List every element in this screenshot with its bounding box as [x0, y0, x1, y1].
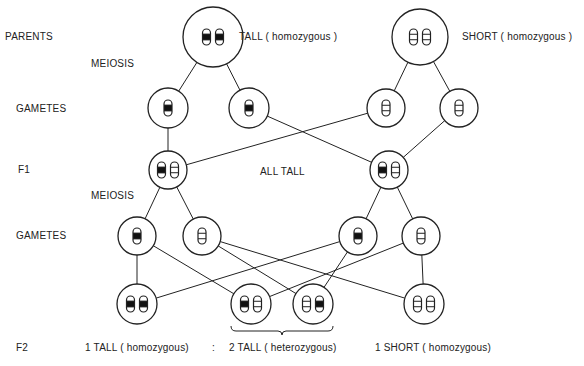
cell-gamete2-a	[118, 217, 156, 255]
cell-membrane	[367, 89, 405, 127]
cell-f2-b	[231, 284, 271, 324]
cell-membrane	[370, 151, 408, 189]
inheritance-line	[433, 62, 449, 92]
inheritance-line	[397, 187, 412, 219]
cell-membrane	[440, 89, 478, 127]
inheritance-line	[366, 187, 381, 219]
row-label-gametes-2: GAMETES	[16, 230, 66, 241]
cell-membrane	[293, 284, 333, 324]
cell-membrane	[392, 9, 448, 65]
row-label-f2: F2	[16, 342, 28, 353]
annotation-f2-ratio-separator: :	[212, 342, 215, 353]
inheritance-line	[394, 62, 408, 91]
cell-membrane	[404, 284, 444, 324]
inheritance-line	[145, 187, 160, 219]
cell-gamete2-c	[339, 217, 377, 255]
inheritance-line	[403, 121, 445, 158]
annotation-short-parent: SHORT ( homozygous )	[462, 31, 572, 42]
cell-f2-a	[117, 284, 157, 324]
cell-gamete1-short-b	[440, 89, 478, 127]
annotation-f2-tall-heterozygous: 2 TALL ( heterozygous)	[229, 342, 337, 353]
cell-f1-right	[370, 151, 408, 189]
cell-membrane	[183, 217, 221, 255]
inheritance-line	[177, 187, 194, 219]
annotation-f1-all-tall: ALL TALL	[260, 166, 305, 177]
row-label-meiosis-1: MEIOSIS	[91, 58, 134, 69]
inheritance-line	[422, 255, 423, 284]
cell-gamete1-tall-a	[148, 88, 188, 128]
cell-membrane	[149, 151, 187, 189]
row-label-meiosis-2: MEIOSIS	[91, 190, 134, 201]
cell-membrane	[117, 284, 157, 324]
cell-gamete1-tall-b	[229, 88, 269, 128]
cell-parent-short	[392, 9, 448, 65]
cell-gamete1-short-a	[367, 89, 405, 127]
inheritance-line	[179, 62, 197, 91]
heterozygous-brace	[231, 326, 333, 335]
cell-f2-c	[293, 284, 333, 324]
cell-f1-left	[149, 151, 187, 189]
cell-membrane	[183, 7, 243, 67]
annotation-f2-short-homozygous: 1 SHORT ( homozygous)	[375, 342, 491, 353]
cell-gamete2-d	[402, 217, 440, 255]
cell-membrane	[402, 217, 440, 255]
annotation-tall-parent: TALL ( homozygous )	[239, 31, 337, 42]
inheritance-line	[270, 243, 404, 297]
cell-f2-d	[404, 284, 444, 324]
inheritance-line	[227, 64, 240, 90]
cell-parent-tall	[183, 7, 243, 67]
row-label-f1: F1	[18, 164, 30, 175]
row-label-gametes-1: GAMETES	[16, 103, 66, 114]
annotation-f2-tall-homozygous: 1 TALL ( homozygous)	[85, 342, 189, 353]
cell-gamete2-b	[183, 217, 221, 255]
cross-diagram-svg	[0, 0, 584, 366]
cell-membrane	[231, 284, 271, 324]
inheritance-line	[267, 116, 371, 162]
monohybrid-cross-diagram: PARENTS MEIOSIS GAMETES F1 MEIOSIS GAMET…	[0, 0, 584, 366]
row-label-parents: PARENTS	[5, 31, 53, 42]
